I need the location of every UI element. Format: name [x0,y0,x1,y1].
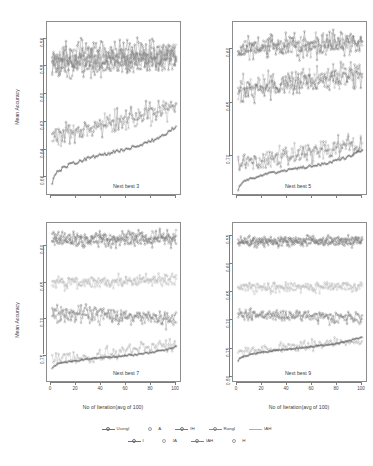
x-tick-label: 20 [251,386,271,391]
legend-item-rangl[interactable]: Rangl [209,427,235,433]
legend-key-icon [227,439,240,445]
legend-item-label: Usergl [117,427,130,431]
legend-circle-marker-icon [132,439,136,443]
series-layer [47,22,180,194]
legend-item-iah[interactable]: IAH [191,439,213,445]
x-tick-label: 0 [40,386,60,391]
y-axis-title-bottom: Mean Accuracy [14,290,20,350]
legend: UserglAIHRanglIAH IIAIAHH [0,424,373,454]
x-tick-label: 20 [65,386,85,391]
legend-key-icon [209,427,222,433]
legend-item-label: IAH [206,439,213,443]
y-axis-line [229,235,230,377]
legend-circle-marker-icon [180,427,184,431]
x-tick-label: 80 [326,386,346,391]
legend-item-label: Rangl [224,427,235,431]
x-axis-title-right: No of Iteration(avg of 100) [248,404,350,410]
legend-item-label: IH [190,427,194,431]
series-H [51,126,176,185]
plot-area-next-best-9 [232,222,367,382]
legend-circle-marker-icon [232,439,236,443]
legend-item-i[interactable]: I [128,439,144,445]
legend-key-icon [158,439,171,445]
x-tick-label: 100 [165,386,185,391]
plot-area-next-best-3 [46,21,181,195]
legend-row-1: UserglAIHRanglIAH [0,424,373,435]
x-tick-label: 0 [226,386,246,391]
legend-item-a[interactable]: A [143,427,161,433]
legend-key-icon [102,427,115,433]
x-tick-label: 60 [115,386,135,391]
x-tick-label: 40 [90,386,110,391]
panel-title-next-best-7: Next best 7 [96,370,156,376]
series-layer [233,223,366,381]
plot-area-next-best-5 [232,21,367,195]
legend-item-label: IAH [264,427,271,431]
y-axis-line [43,38,44,177]
series-IA [237,308,363,326]
series-IA [51,305,177,331]
legend-circle-marker-icon [213,427,217,431]
legend-circle-marker-icon [148,427,152,431]
series-IH [51,233,177,250]
legend-line-icon [249,429,262,430]
legend-item-h[interactable]: H [227,439,245,445]
legend-item-label: A [158,427,161,431]
x-tick-label: 60 [301,386,321,391]
x-tick-label: 100 [351,386,371,391]
legend-item-usergl[interactable]: Usergl [102,427,130,433]
x-axis-line [236,382,361,383]
panel-title-next-best-5: Next best 5 [268,183,328,189]
plot-area-next-best-7 [46,222,181,382]
legend-item-label: H [242,439,245,443]
legend-item-iah[interactable]: IAH [249,427,271,433]
legend-key-icon [143,427,156,433]
legend-circle-marker-icon [162,439,166,443]
x-axis-line [50,195,175,196]
legend-key-icon [249,427,262,433]
series-layer [47,223,180,381]
figure-canvas: 0.660.640.620.600.580.56 Next best 3 0.7… [0,0,373,466]
legend-row-2: IIAIAHH [0,436,373,447]
legend-item-label: IA [173,439,177,443]
series-layer [233,22,366,194]
x-axis-line [50,382,175,383]
y-axis-line [43,245,44,354]
legend-item-label: I [143,439,144,443]
x-axis-title-left: No of Iteration(avg of 100) [62,404,164,410]
series-Rangl [237,61,363,94]
legend-item-ia[interactable]: IA [158,439,177,445]
legend-item-ih[interactable]: IH [175,427,194,433]
legend-key-icon [191,439,204,445]
legend-key-icon [128,439,141,445]
x-tick-label: 80 [140,386,160,391]
series-H [237,336,362,361]
legend-key-icon [175,427,188,433]
x-tick-label: 40 [276,386,296,391]
x-axis-line [236,195,361,196]
x-tick-mark [175,382,176,385]
y-axis-line [229,48,230,156]
x-tick-mark [361,382,362,385]
series-IAH2 [237,134,363,171]
legend-circle-marker-icon [106,427,110,431]
x-tick-mark [361,195,362,198]
x-tick-mark [175,195,176,198]
panel-title-next-best-3: Next best 3 [96,183,156,189]
legend-circle-marker-icon [195,439,199,443]
panel-title-next-best-9: Next best 9 [268,370,328,376]
y-axis-title-top: Mean Accuracy [14,77,20,137]
